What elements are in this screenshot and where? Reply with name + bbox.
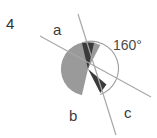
label-a: a [53, 22, 61, 37]
angle-diagram-figure: 4 a b c 160° [0, 0, 157, 138]
dark-wedge-lower [88, 69, 107, 93]
angle-measure-label: 160° [113, 38, 142, 52]
geometry-drawing [0, 0, 157, 138]
label-c: c [124, 105, 132, 120]
label-b: b [69, 108, 77, 123]
shaded-sector-b [61, 42, 100, 95]
problem-number: 4 [6, 16, 14, 31]
